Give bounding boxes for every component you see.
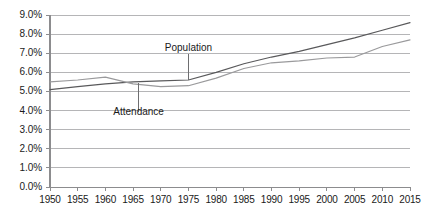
y-axis-tick-label: 7.0% — [0, 48, 42, 58]
annotation-label-attendance: Attendance — [79, 107, 199, 117]
y-axis-tick-label: 6.0% — [0, 67, 42, 77]
y-axis-tick-label: 2.0% — [0, 144, 42, 154]
y-axis-tick-label: 0.0% — [0, 182, 42, 192]
y-axis-tick-label: 1.0% — [0, 163, 42, 173]
annotation-label-population: Population — [128, 43, 248, 53]
y-axis-tick-label: 5.0% — [0, 86, 42, 96]
x-axis-tick-label: 2015 — [393, 195, 425, 205]
y-axis-tick-label: 4.0% — [0, 106, 42, 116]
y-axis-tick-label: 8.0% — [0, 29, 42, 39]
y-axis-tick-label: 3.0% — [0, 125, 42, 135]
y-axis-tick-label: 9.0% — [0, 10, 42, 20]
